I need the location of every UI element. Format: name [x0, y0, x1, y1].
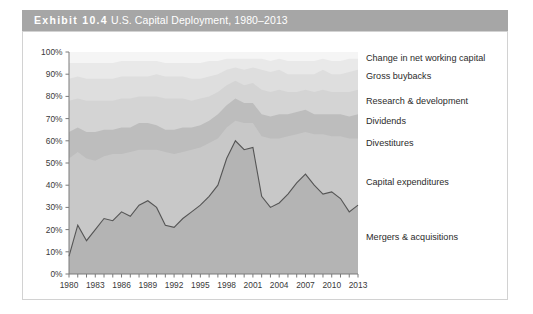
x-tick-label: 2007	[296, 280, 315, 290]
y-tick-label: 0%	[50, 269, 63, 279]
x-tick-label: 1995	[191, 280, 210, 290]
exhibit-figure: Exhibit 10.4 U.S. Capital Deployment, 19…	[0, 0, 533, 314]
chart-area: 0%10%20%30%40%50%60%70%80%90%100% 198019…	[0, 0, 533, 314]
y-tick-label: 50%	[46, 158, 63, 168]
x-tick-label: 2004	[270, 280, 289, 290]
x-tick-label: 2001	[244, 280, 263, 290]
chart-legend: Change in net working capitalGross buyba…	[366, 53, 485, 242]
y-tick-label: 10%	[46, 247, 63, 257]
y-tick-label: 40%	[46, 180, 63, 190]
y-tick-label: 90%	[46, 69, 63, 79]
x-tick-label: 1983	[86, 280, 105, 290]
x-tick-label: 1986	[112, 280, 131, 290]
x-tick-label: 2013	[349, 280, 368, 290]
y-tick-label: 100%	[41, 47, 63, 57]
y-tick-label: 80%	[46, 91, 63, 101]
legend-label-gross-buybacks: Gross buybacks	[366, 71, 432, 81]
legend-label-divestitures: Divestitures	[366, 138, 414, 148]
legend-label-research-development: Research & development	[366, 96, 469, 106]
legend-label-mergers-acquisitions: Mergers & acquisitions	[366, 232, 458, 242]
y-tick-label: 30%	[46, 202, 63, 212]
legend-label-capital-expenditures: Capital expenditures	[366, 177, 449, 187]
y-axis-tick-labels: 0%10%20%30%40%50%60%70%80%90%100%	[41, 47, 69, 279]
x-tick-label: 2010	[322, 280, 341, 290]
legend-label-dividends: Dividends	[366, 116, 406, 126]
stacked-area-chart: 0%10%20%30%40%50%60%70%80%90%100% 198019…	[0, 0, 533, 314]
x-tick-label: 1992	[165, 280, 184, 290]
x-tick-label: 1989	[138, 280, 157, 290]
y-tick-label: 20%	[46, 225, 63, 235]
area-bands	[69, 52, 358, 274]
x-tick-label: 1998	[217, 280, 236, 290]
y-tick-label: 60%	[46, 136, 63, 146]
x-tick-label: 1980	[60, 280, 79, 290]
y-tick-label: 70%	[46, 114, 63, 124]
legend-label-change-in-net-working-capital: Change in net working capital	[366, 53, 485, 63]
x-axis-tick-labels: 1980198319861989199219951998200120042007…	[60, 274, 368, 290]
